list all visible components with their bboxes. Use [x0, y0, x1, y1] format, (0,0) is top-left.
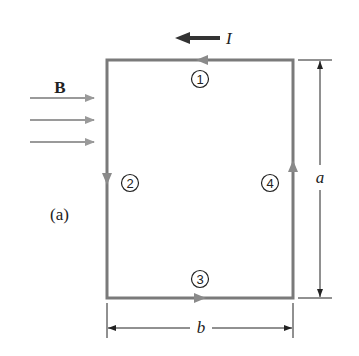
current-label: I [225, 29, 233, 48]
segment-2-arrow-icon [102, 173, 112, 185]
segment-3-arrow-icon [194, 293, 206, 303]
svg-text:1: 1 [196, 72, 203, 87]
svg-text:2: 2 [126, 176, 133, 191]
width-label: b [197, 318, 206, 337]
current-loop [107, 60, 293, 298]
svg-text:4: 4 [266, 176, 273, 191]
segment-4-arrow-icon [288, 160, 298, 172]
current-loop-diagram: I 1 2 3 4 B (a) a [0, 0, 359, 356]
panel-label: (a) [50, 205, 69, 224]
magnetic-field-arrows [30, 98, 94, 142]
segment-1-arrow-icon [196, 55, 208, 65]
field-label: B [54, 78, 65, 97]
current-direction-arrow [175, 32, 220, 44]
height-label: a [316, 168, 325, 187]
segment-2-label: 2 [122, 175, 139, 192]
svg-text:3: 3 [196, 272, 203, 287]
segment-1-label: 1 [192, 71, 209, 88]
segment-4-label: 4 [262, 175, 279, 192]
segment-3-label: 3 [192, 271, 209, 288]
